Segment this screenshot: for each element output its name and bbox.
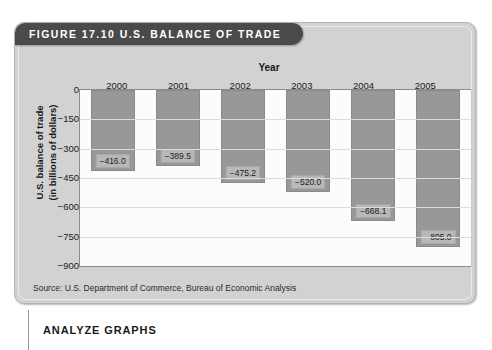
bar[interactable]: −805.0 xyxy=(416,90,460,247)
bar-value-label: −520.0 xyxy=(291,175,325,189)
bar[interactable]: −668.1 xyxy=(351,90,395,221)
gridline xyxy=(80,178,471,179)
source-note: Source: U.S. Department of Commerce, Bur… xyxy=(33,283,296,293)
caption-block: ANALYZE GRAPHS xyxy=(28,310,157,350)
chart-area: Year 2000 2001 2002 2003 2004 2005 U.S. … xyxy=(15,45,475,303)
x-axis-title: Year xyxy=(79,62,459,73)
gridline xyxy=(80,237,471,238)
bar[interactable]: −520.0 xyxy=(286,90,330,192)
y-tick-label: −900 xyxy=(51,260,79,271)
y-tick-label: −600 xyxy=(51,201,79,212)
figure-title: FIGURE 17.10 U.S. BALANCE OF TRADE xyxy=(29,28,281,40)
gridline xyxy=(80,119,471,120)
y-tick-label: −300 xyxy=(51,142,79,153)
y-tick-label: −750 xyxy=(51,230,79,241)
y-tick-label: 0 xyxy=(51,84,79,95)
y-axis-tick-labels: 0−150−300−450−600−750−900 xyxy=(51,89,79,265)
bar[interactable]: −416.0 xyxy=(91,90,135,171)
figure-title-bar: FIGURE 17.10 U.S. BALANCE OF TRADE xyxy=(15,23,303,45)
bar[interactable]: −475.2 xyxy=(221,90,265,183)
gridline xyxy=(80,149,471,150)
bar[interactable]: −389.5 xyxy=(156,90,200,166)
bar-value-label: −416.0 xyxy=(95,154,129,168)
bar-value-label: −389.5 xyxy=(161,149,195,163)
gridline xyxy=(80,207,471,208)
y-tick-label: −450 xyxy=(51,172,79,183)
y-axis-title-line-1: U.S. balance of trade xyxy=(34,63,47,243)
figure-card: FIGURE 17.10 U.S. BALANCE OF TRADE Year … xyxy=(14,22,476,304)
plot-area: −416.0−389.5−475.2−520.0−668.1−805.0 xyxy=(79,89,472,267)
bar-value-label: −668.1 xyxy=(356,204,390,218)
analyze-graphs-caption: ANALYZE GRAPHS xyxy=(43,324,157,336)
y-tick-label: −150 xyxy=(51,113,79,124)
